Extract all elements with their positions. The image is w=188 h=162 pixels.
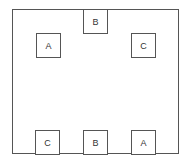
box-label: C xyxy=(140,41,147,51)
box-bottom-right: A xyxy=(131,130,156,155)
box-label: A xyxy=(140,138,146,148)
box-label: A xyxy=(45,41,51,51)
box-upper-right: C xyxy=(131,33,156,58)
box-bottom-center: B xyxy=(83,130,108,155)
box-label: B xyxy=(92,17,98,27)
box-bottom-left: C xyxy=(35,130,60,155)
box-upper-left: A xyxy=(36,33,61,58)
box-top-center: B xyxy=(83,9,108,34)
box-label: C xyxy=(44,138,51,148)
box-label: B xyxy=(92,138,98,148)
